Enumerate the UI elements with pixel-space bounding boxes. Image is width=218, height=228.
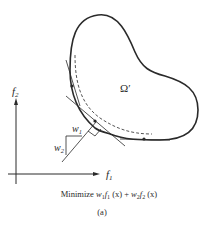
weight1-label: w1 [72,123,82,135]
subfigure-label: (a) [97,207,107,217]
tangent-point-upper [70,84,73,87]
region-label: Ω′ [120,82,131,94]
weight-triangle [66,136,82,155]
caption: Minimize w1f1 (x) + w2f2 (x) [61,189,158,200]
y-axis-label: f2 [12,85,19,99]
tangent-line-upper [66,60,80,106]
weighted-sum-diagram: Ω′ f2 f1 w1 w2 Minimize w1f1 (x) + w2f2 … [0,0,218,228]
tangent-point-middle [93,119,96,122]
objective-region-outline [70,15,198,140]
x-axis-arrow-icon [93,172,100,176]
weight2-label: w2 [54,142,65,154]
tangent-point-lower [142,137,145,140]
pareto-front-dashed [75,55,152,134]
x-axis-label: f1 [106,168,113,182]
y-axis-arrow-icon [14,98,18,105]
